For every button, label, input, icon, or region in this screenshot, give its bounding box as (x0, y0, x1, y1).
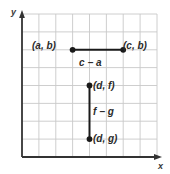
x-axis-label: x (158, 162, 163, 171)
horizontal-segment (70, 47, 126, 53)
point-label-d-g: (d, g) (93, 134, 117, 144)
point-a-b-marker (70, 47, 76, 53)
coordinate-plane-svg (0, 0, 170, 174)
coordinate-plane-figure: y x (a, b) (c, b) c − a (d, f) f − g (d,… (0, 0, 170, 174)
segment-length-label-f-minus-g: f − g (93, 107, 114, 117)
vertical-segment (87, 83, 93, 142)
point-d-g-marker (87, 136, 93, 142)
x-axis (22, 154, 162, 160)
point-label-d-f: (d, f) (93, 81, 115, 91)
segment-length-label-c-minus-a: c − a (79, 58, 102, 68)
y-axis-label: y (11, 8, 16, 17)
point-d-f-marker (87, 83, 93, 89)
point-label-c-b: (c, b) (123, 41, 147, 51)
point-label-a-b: (a, b) (32, 41, 56, 51)
